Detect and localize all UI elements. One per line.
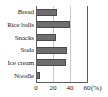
bar-snacks	[36, 34, 56, 41]
axis-left-spine	[36, 6, 37, 83]
bar-row	[36, 44, 67, 57]
axis-bottom-spine	[36, 82, 88, 83]
category-label-soda: Soda	[0, 44, 35, 57]
bar-rice-balls	[36, 21, 70, 28]
x-tick-label-0: 0	[34, 84, 38, 93]
bar-bread	[36, 9, 57, 16]
gridline-40	[70, 6, 71, 82]
x-tick-label-40: 40	[67, 84, 74, 93]
category-axis-labels: Bread Rice balls Snacks Soda Ice cream N…	[0, 6, 35, 82]
value-axis-labels: (%) 0204060	[0, 84, 108, 94]
category-label-rice-balls: Rice balls	[0, 19, 35, 32]
bar-row	[36, 57, 66, 70]
axis-right-spine	[87, 6, 88, 83]
category-label-bread: Bread	[0, 6, 35, 19]
bar-chart: Bread Rice balls Snacks Soda Ice cream N…	[0, 0, 108, 97]
category-label-noodle: Noodle	[0, 69, 35, 82]
bar-ice-cream	[36, 59, 66, 66]
category-label-snacks: Snacks	[0, 31, 35, 44]
bar-row	[36, 6, 57, 19]
x-tick-label-20: 20	[50, 84, 57, 93]
bar-row	[36, 31, 56, 44]
x-tick-label-60: 60	[84, 84, 91, 93]
bar-row	[36, 19, 70, 32]
axis-unit-label: (%)	[91, 84, 102, 93]
category-label-ice-cream: Ice cream	[0, 57, 35, 70]
bar-soda	[36, 47, 67, 54]
plot-area	[36, 6, 87, 82]
